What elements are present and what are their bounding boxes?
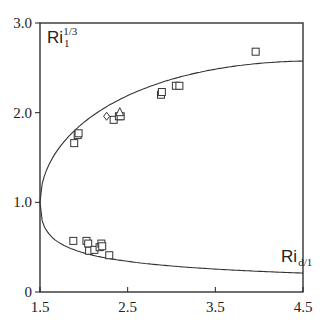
y-tick-label: 3.0	[13, 15, 32, 31]
label-ri1: Ri11/3	[47, 25, 78, 49]
label-subscript: d/1	[298, 256, 312, 268]
data-points	[70, 48, 259, 259]
series-labels: Ri11/3Rid/1	[47, 25, 312, 269]
label-superscript: 1/3	[63, 25, 78, 37]
square-marker	[176, 82, 183, 89]
diamond-marker	[104, 112, 110, 120]
x-tick-label: 3.5	[206, 299, 225, 315]
x-tick-label: 4.5	[294, 299, 313, 315]
chart: 1.52.53.54.501.02.03.0 Ri11/3Rid/1	[0, 0, 329, 323]
x-tick-label: 2.5	[118, 299, 137, 315]
axis-ticks: 1.52.53.54.501.02.03.0	[13, 15, 312, 315]
y-tick-label: 2.0	[13, 105, 32, 121]
square-marker	[158, 89, 165, 96]
square-marker	[99, 243, 106, 250]
square-marker	[106, 252, 113, 259]
y-tick-label: 1.0	[13, 194, 32, 210]
label-rid1: Rid/1	[281, 247, 312, 268]
square-marker	[75, 130, 82, 137]
y-tick-label: 0	[25, 284, 33, 300]
square-marker	[252, 48, 259, 55]
square-marker	[71, 140, 78, 147]
triangle-marker	[116, 108, 124, 116]
lower-curve	[40, 202, 303, 273]
x-tick-label: 1.5	[31, 299, 50, 315]
fit-curves	[40, 61, 303, 273]
square-marker	[70, 237, 77, 244]
label-subscript: 1	[64, 37, 69, 49]
